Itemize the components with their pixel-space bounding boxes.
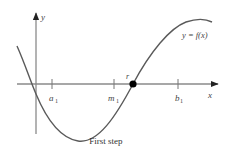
root-point: [129, 80, 136, 87]
curve-label: y = f(x): [181, 30, 208, 40]
label-r: r: [126, 72, 130, 81]
svg-text:1: 1: [180, 98, 183, 104]
label-m1: m 1: [108, 93, 119, 104]
svg-text:1: 1: [116, 98, 119, 104]
x-axis-label: x: [207, 90, 212, 100]
diagram-caption: First step: [89, 136, 123, 146]
svg-text:1: 1: [55, 98, 58, 104]
svg-text:a: a: [49, 93, 54, 103]
y-axis-label: y: [40, 12, 45, 22]
bisection-diagram: y x y = f(x) r a 1 m 1 b 1 First step: [0, 0, 226, 148]
label-a1: a 1: [49, 93, 58, 104]
label-b1: b 1: [175, 93, 183, 104]
svg-text:m: m: [108, 93, 115, 103]
